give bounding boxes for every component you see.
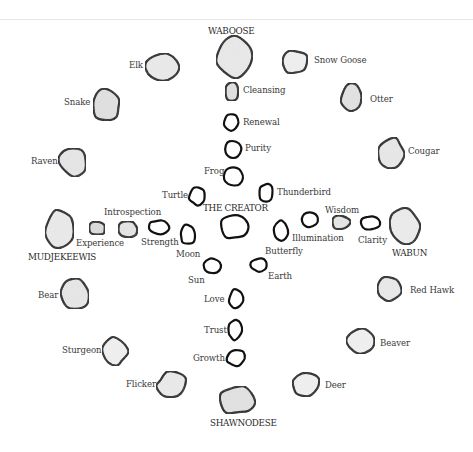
- growth-stone: [227, 350, 245, 366]
- flicker-stone: [156, 371, 186, 397]
- beaver-stone: [346, 328, 374, 354]
- earth-stone: [251, 258, 267, 272]
- creator-label: THE CREATOR: [203, 204, 268, 213]
- deer-label: Deer: [325, 381, 346, 390]
- mudjekeewis-stone: [45, 210, 74, 248]
- wabun-label: WABUN: [392, 249, 427, 258]
- sun-label: Sun: [188, 276, 205, 285]
- snow-goose-stone: [283, 51, 308, 74]
- snake-stone: [93, 89, 119, 120]
- experience-label: Experience: [76, 239, 124, 248]
- wisdom-stone: [332, 216, 350, 230]
- moon-label: Moon: [176, 250, 200, 259]
- butterfly-label: Butterfly: [265, 247, 303, 256]
- moon-stone: [181, 225, 195, 244]
- turtle-label: Turtle: [162, 191, 188, 200]
- growth-label: Growth: [193, 354, 225, 363]
- cougar-stone: [378, 138, 404, 169]
- red-hawk-stone: [377, 277, 401, 301]
- shawnodese-label: SHAWNODESE: [210, 419, 277, 428]
- snake-label: Snake: [64, 98, 90, 107]
- strength-label: Strength: [141, 238, 179, 247]
- wabun-stone: [390, 208, 420, 244]
- mudjekeewis-label: MUDJEKEEWIS: [28, 253, 96, 262]
- thunderbird-label: Thunderbird: [277, 188, 331, 197]
- butterfly-stone: [274, 220, 288, 240]
- sturgeon-label: Sturgeon: [62, 346, 101, 355]
- cleansing-label: Cleansing: [243, 86, 285, 95]
- illumination-label: Illumination: [292, 234, 344, 243]
- illumination-stone: [302, 213, 318, 228]
- snow-goose-label: Snow Goose: [314, 56, 366, 65]
- thunderbird-stone: [260, 184, 273, 202]
- renewal-stone: [224, 114, 239, 131]
- clarity-label: Clarity: [358, 236, 387, 245]
- introspection-label: Introspection: [104, 208, 161, 217]
- shawnodese-stone: [220, 386, 255, 413]
- cleansing-stone: [226, 82, 239, 101]
- bear-stone: [61, 278, 89, 308]
- experience-stone: [89, 222, 105, 235]
- bear-label: Bear: [38, 291, 58, 300]
- cougar-label: Cougar: [408, 147, 439, 156]
- otter-stone: [341, 83, 362, 111]
- waboose-label: WABOOSE: [208, 27, 254, 36]
- earth-label: Earth: [268, 272, 292, 281]
- raven-stone: [59, 148, 86, 176]
- raven-label: Raven: [31, 157, 58, 166]
- sturgeon-stone: [102, 337, 128, 366]
- trust-stone: [228, 320, 242, 340]
- clarity-stone: [361, 216, 380, 229]
- sun-stone: [204, 258, 221, 273]
- wisdom-label: Wisdom: [325, 206, 359, 215]
- red-hawk-label: Red Hawk: [410, 286, 454, 295]
- renewal-label: Renewal: [243, 118, 280, 127]
- introspection-stone: [118, 221, 137, 237]
- flicker-label: Flicker: [126, 380, 156, 389]
- frog-stone: [224, 168, 243, 186]
- elk-label: Elk: [129, 61, 143, 70]
- creator-stone: [221, 215, 248, 238]
- elk-stone: [145, 53, 179, 81]
- love-label: Love: [204, 295, 224, 304]
- purity-label: Purity: [245, 144, 271, 153]
- trust-label: Trust: [204, 326, 227, 335]
- deer-stone: [293, 373, 320, 396]
- purity-stone: [225, 141, 241, 158]
- medicine-wheel-diagram: [0, 0, 473, 452]
- beaver-label: Beaver: [380, 339, 410, 348]
- waboose-stone: [216, 36, 252, 79]
- frog-label: Frog: [204, 167, 224, 176]
- strength-stone: [149, 220, 169, 234]
- love-stone: [229, 289, 243, 308]
- otter-label: Otter: [370, 95, 393, 104]
